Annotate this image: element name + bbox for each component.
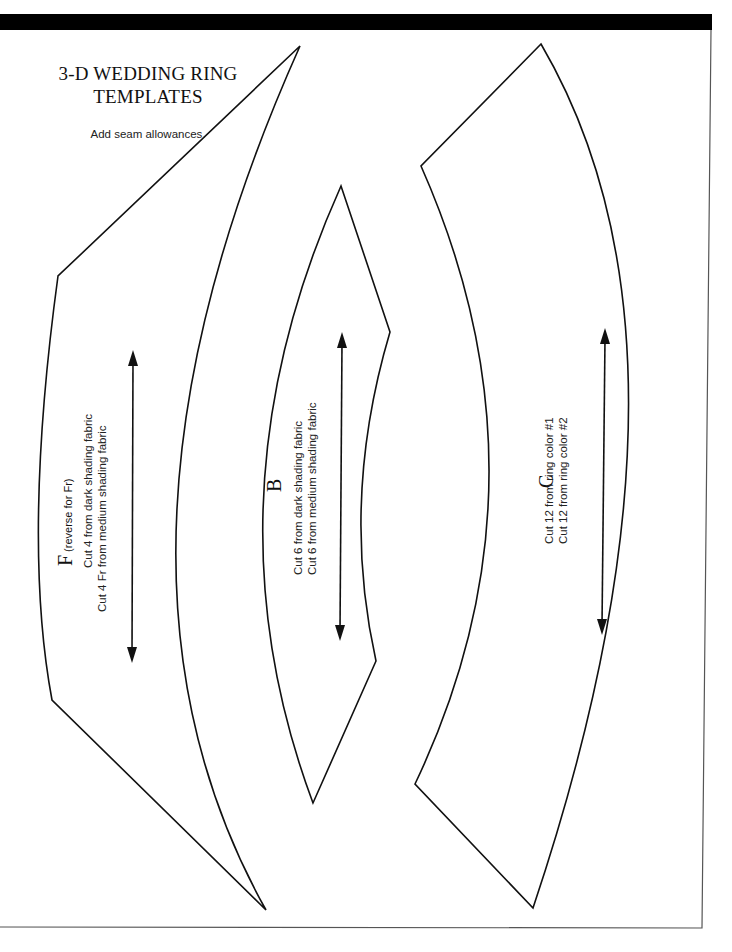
template-f-note: (reverse for Fr) <box>62 479 74 552</box>
seam-allowance-note: Add seam allowances. <box>48 128 248 140</box>
page-title: 3-D WEDDING RING TEMPLATES <box>48 62 248 108</box>
template-f-outline <box>38 46 300 910</box>
grainline-arrow-f <box>127 350 138 663</box>
template-f-label: F(reverse for Fr) <box>54 479 77 566</box>
template-c-cut-1: Cut 12 from ring color #1 <box>543 417 556 544</box>
pattern-page: 3-D WEDDING RING TEMPLATES Add seam allo… <box>0 0 732 952</box>
title-line-2: TEMPLATES <box>48 85 248 108</box>
header-bar <box>0 14 712 30</box>
template-b-cut-2: Cut 6 from medium shading fabric <box>306 402 319 575</box>
template-c-cut-2: Cut 12 from ring color #2 <box>557 417 570 544</box>
grainline-arrow-b <box>335 332 347 641</box>
template-b-letter: B <box>263 479 286 492</box>
template-f-letter: F <box>54 555 76 566</box>
title-line-1: 3-D WEDDING RING <box>48 62 248 85</box>
template-f-cut-1: Cut 4 from dark shading fabric <box>82 414 95 568</box>
template-f-cut-2: Cut 4 Fr from medium shading fabric <box>96 425 109 612</box>
template-b-cut-1: Cut 6 from dark shading fabric <box>292 421 305 575</box>
grainline-arrow-c <box>597 328 610 635</box>
template-c-outline <box>415 44 629 908</box>
template-b-outline <box>263 186 390 803</box>
template-drawings <box>0 0 732 952</box>
